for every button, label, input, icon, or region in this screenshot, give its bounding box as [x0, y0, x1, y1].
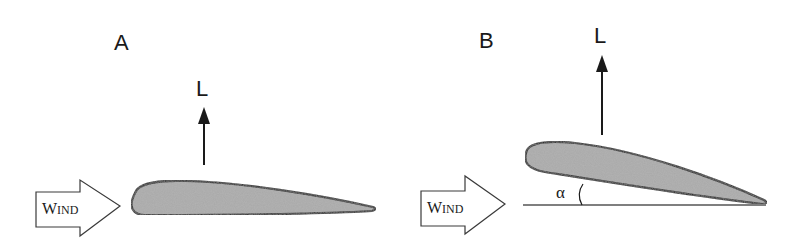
- lift-arrow-icon-a: [198, 107, 210, 165]
- lift-label-a: L: [196, 76, 208, 101]
- angle-of-attack-label: α: [556, 183, 565, 202]
- panel-a-label: A: [114, 30, 129, 55]
- wind-label-b: WIND: [427, 199, 464, 216]
- wind-arrow-a: WIND: [36, 180, 120, 236]
- wind-arrow-b: WIND: [421, 176, 505, 234]
- angle-arc-icon: [579, 184, 583, 205]
- lift-arrow-icon-b: [596, 55, 608, 135]
- lift-label-b: L: [594, 23, 606, 48]
- wind-label-a: WIND: [42, 200, 79, 217]
- panel-b: B L WIND α: [421, 23, 767, 234]
- panel-b-label: B: [479, 28, 494, 53]
- panel-a: A L WIND: [36, 30, 375, 236]
- airfoil-a: [132, 181, 376, 215]
- airfoil-lift-diagram: A L WIND B L WIND: [0, 0, 808, 248]
